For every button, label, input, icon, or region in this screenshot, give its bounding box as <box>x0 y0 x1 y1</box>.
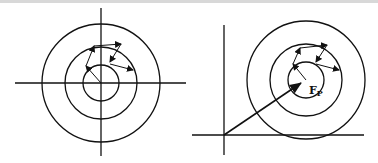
vector-label: FP <box>309 84 323 98</box>
diagram-canvas: FP <box>0 0 378 163</box>
arrow-chain <box>86 44 133 83</box>
position-vector <box>224 83 301 135</box>
left-panel <box>15 8 186 156</box>
right-panel <box>192 21 365 155</box>
